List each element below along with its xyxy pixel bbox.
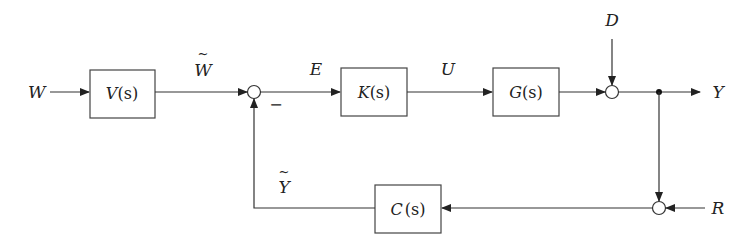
block-g: G(s): [493, 68, 559, 116]
signal-e-label: E: [309, 59, 323, 79]
summing-junction-3: [653, 202, 666, 215]
signal-y-tilde-label: Y: [278, 177, 291, 197]
block-g-label: G(s): [509, 83, 542, 102]
block-c-label: C(s): [391, 200, 426, 219]
signal-d-label: D: [604, 10, 619, 30]
block-k-label: K(s): [357, 83, 391, 102]
summing-junction-1: [248, 86, 261, 99]
signal-r-label: R: [711, 198, 725, 218]
block-v: V(s): [90, 70, 155, 118]
minus-sign: −: [269, 95, 282, 114]
signal-y-label: Y: [712, 82, 725, 102]
block-c: C(s): [375, 185, 441, 233]
block-diagram: W V(s) ~ W − E K(s) U G(s) D Y R: [0, 0, 752, 243]
signal-w-tilde-label: W: [194, 60, 213, 80]
block-v-label: V(s): [106, 84, 138, 103]
summing-junction-2: [606, 86, 619, 99]
signal-u-label: U: [441, 59, 456, 79]
signal-w-tilde-tilde: ~: [198, 46, 209, 61]
block-k: K(s): [341, 68, 407, 116]
signal-w-label: W: [28, 82, 47, 102]
